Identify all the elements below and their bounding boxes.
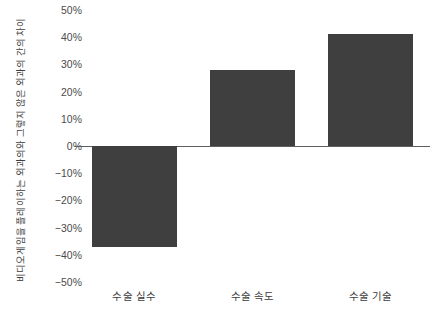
- x-axis-category-label: 수술 속도: [231, 288, 274, 303]
- y-axis-title: 비디오게임을 플레이하는 외과의와 그렇지 않은 외과의 간의 차이: [16, 18, 25, 282]
- x-axis-category-label: 수술 기술: [349, 288, 392, 303]
- bar-chart: 비디오게임을 플레이하는 외과의와 그렇지 않은 외과의 간의 차이 50%40…: [0, 0, 435, 331]
- bar: [92, 146, 177, 247]
- x-axis-category-label: 수술 실수: [112, 288, 155, 303]
- bar: [210, 70, 295, 146]
- bar: [328, 34, 413, 146]
- plot-area: [75, 10, 430, 282]
- x-axis-category-labels: 수술 실수수술 속도수술 기술: [75, 288, 430, 308]
- y-axis-title-container: 비디오게임을 플레이하는 외과의와 그렇지 않은 외과의 간의 차이: [8, 0, 34, 300]
